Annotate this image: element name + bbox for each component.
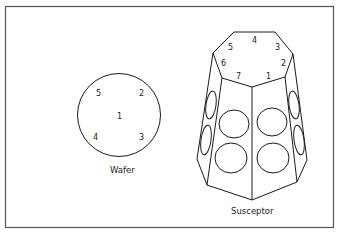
wafer-caption: Wafer — [110, 165, 135, 175]
wafer-point-4: 4 — [93, 133, 98, 142]
diagram-canvas: 5 2 1 4 3 Wafer 4 5 3 6 2 — [0, 0, 338, 233]
wafer-point-5: 5 — [96, 89, 101, 98]
wafer-point-3: 3 — [139, 133, 144, 142]
susceptor-position-6: 6 — [221, 59, 226, 68]
wafer-pocket — [215, 143, 247, 173]
wafer-pocket — [292, 124, 306, 155]
wafer-point-1: 1 — [117, 112, 122, 121]
susceptor-position-3: 3 — [275, 43, 280, 52]
figure-frame — [6, 7, 334, 228]
susceptor-position-4: 4 — [252, 36, 257, 45]
susceptor-position-2: 2 — [281, 59, 286, 68]
wafer-point-2: 2 — [139, 89, 144, 98]
susceptor-position-7: 7 — [236, 72, 241, 81]
susceptor-position-5: 5 — [228, 43, 233, 52]
susceptor-caption: Susceptor — [231, 206, 274, 216]
wafer-pocket — [257, 108, 287, 136]
wafer-pocket — [204, 90, 218, 119]
wafer-pocket — [219, 110, 249, 138]
susceptor-position-1: 1 — [266, 72, 271, 81]
wafer-diagram: 5 2 1 4 3 Wafer — [78, 74, 161, 176]
wafer-pocket — [257, 143, 289, 173]
susceptor-diagram: 4 5 3 6 2 7 1 Susceptor — [197, 32, 307, 216]
